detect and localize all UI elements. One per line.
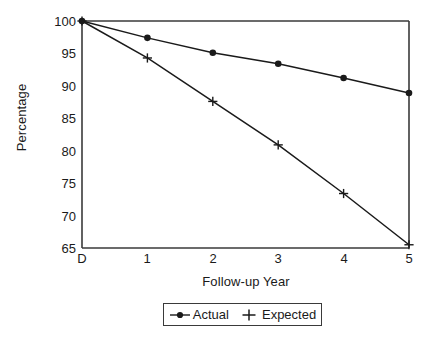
data-point-marker <box>340 75 347 82</box>
plot-area <box>0 0 434 343</box>
legend-item-expected: Expected <box>238 308 316 322</box>
series-expected <box>77 16 413 249</box>
legend-label-expected: Expected <box>262 308 316 321</box>
series-line <box>82 21 409 93</box>
axis-lines <box>82 21 409 248</box>
data-point-marker <box>77 16 86 25</box>
data-point-marker <box>208 97 217 106</box>
chart-legend: Actual Expected <box>163 303 322 326</box>
data-series-layer <box>77 16 413 249</box>
legend-item-actual: Actual <box>169 308 229 322</box>
series-line <box>82 21 409 245</box>
data-point-marker <box>144 35 151 42</box>
filled-circle-marker-icon <box>169 308 191 322</box>
data-point-marker <box>210 49 217 56</box>
legend-label-actual: Actual <box>193 308 229 321</box>
series-actual <box>79 18 413 97</box>
plus-marker-icon <box>238 308 260 322</box>
data-point-marker <box>275 61 282 68</box>
chart-figure: Percentage 100 95 90 85 80 75 70 65 D 1 … <box>0 0 434 343</box>
data-point-marker <box>143 53 152 62</box>
data-point-marker <box>406 90 413 97</box>
